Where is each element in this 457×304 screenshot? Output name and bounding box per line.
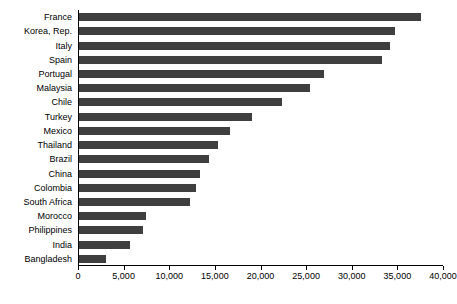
bar-row bbox=[79, 241, 444, 249]
category-label: Chile bbox=[51, 97, 72, 107]
category-label: Morocco bbox=[37, 211, 72, 221]
bar bbox=[79, 198, 190, 206]
category-label: France bbox=[44, 12, 72, 22]
bar-row bbox=[79, 113, 444, 121]
bar bbox=[79, 241, 130, 249]
category-label: Brazil bbox=[49, 154, 72, 164]
bar-row bbox=[79, 141, 444, 149]
category-label: Korea, Rep. bbox=[24, 26, 72, 36]
bar-row bbox=[79, 56, 444, 64]
bar-row bbox=[79, 70, 444, 78]
bar bbox=[79, 84, 310, 92]
category-label: South Africa bbox=[23, 197, 72, 207]
bar-row bbox=[79, 42, 444, 50]
tick-mark bbox=[261, 266, 262, 270]
tick-label: 40,000 bbox=[429, 271, 457, 281]
category-label: Spain bbox=[49, 55, 72, 65]
tick-label: 10,000 bbox=[155, 271, 183, 281]
tick-mark bbox=[443, 266, 444, 270]
bar bbox=[79, 27, 395, 35]
plot-area bbox=[78, 10, 443, 266]
bar-row bbox=[79, 27, 444, 35]
bar-row bbox=[79, 155, 444, 163]
bar bbox=[79, 127, 230, 135]
tick-label: 0 bbox=[75, 271, 80, 281]
tick-mark bbox=[169, 266, 170, 270]
bar bbox=[79, 98, 282, 106]
bar-row bbox=[79, 212, 444, 220]
category-label: Philippines bbox=[28, 225, 72, 235]
bar bbox=[79, 212, 146, 220]
bar bbox=[79, 155, 209, 163]
bar bbox=[79, 141, 218, 149]
bar bbox=[79, 170, 200, 178]
tick-mark bbox=[215, 266, 216, 270]
category-label: Mexico bbox=[43, 126, 72, 136]
bar bbox=[79, 70, 324, 78]
tick-label: 15,000 bbox=[201, 271, 229, 281]
tick-label: 35,000 bbox=[384, 271, 412, 281]
tick-mark bbox=[306, 266, 307, 270]
bar-row bbox=[79, 226, 444, 234]
category-label: Italy bbox=[55, 41, 72, 51]
bar bbox=[79, 226, 143, 234]
tick-mark bbox=[352, 266, 353, 270]
x-axis-ticks: 05,00010,00015,00020,00025,00030,00035,0… bbox=[78, 266, 443, 286]
bar-row bbox=[79, 84, 444, 92]
bar-row bbox=[79, 98, 444, 106]
category-label: Thailand bbox=[37, 140, 72, 150]
tick-label: 25,000 bbox=[292, 271, 320, 281]
category-label: Turkey bbox=[45, 112, 72, 122]
bar-row bbox=[79, 184, 444, 192]
tick-mark bbox=[78, 266, 79, 270]
category-label: China bbox=[48, 169, 72, 179]
tick-mark bbox=[124, 266, 125, 270]
bar bbox=[79, 255, 106, 263]
tick-label: 20,000 bbox=[247, 271, 275, 281]
bar-row bbox=[79, 170, 444, 178]
bars-layer bbox=[79, 10, 443, 265]
tick-label: 30,000 bbox=[338, 271, 366, 281]
bar bbox=[79, 42, 390, 50]
tick-label: 5,000 bbox=[112, 271, 135, 281]
category-axis-labels: FranceKorea, Rep.ItalySpainPortugalMalay… bbox=[0, 0, 76, 256]
bar bbox=[79, 13, 421, 21]
category-label: Malaysia bbox=[36, 83, 72, 93]
bar bbox=[79, 113, 252, 121]
bar-row bbox=[79, 255, 444, 263]
category-label: Bangladesh bbox=[24, 254, 72, 264]
bar bbox=[79, 184, 196, 192]
bar-row bbox=[79, 198, 444, 206]
bar-row bbox=[79, 13, 444, 21]
category-label: Portugal bbox=[38, 69, 72, 79]
tick-mark bbox=[397, 266, 398, 270]
category-label: India bbox=[52, 240, 72, 250]
bar bbox=[79, 56, 382, 64]
category-label: Colombia bbox=[34, 183, 72, 193]
bar-row bbox=[79, 127, 444, 135]
